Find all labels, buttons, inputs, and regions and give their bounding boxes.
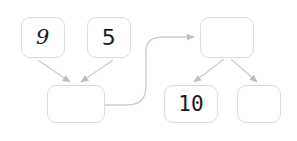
- node-sum-left[interactable]: [47, 85, 105, 123]
- edge-total-to-part-left: [194, 59, 224, 82]
- node-part-right[interactable]: [237, 85, 281, 123]
- node-part-left[interactable]: 10: [164, 85, 218, 123]
- edge-total-to-part-right: [231, 59, 257, 82]
- node-total-top[interactable]: [200, 17, 254, 58]
- node-addend-left[interactable]: 9: [21, 17, 65, 58]
- edge-addend-right-to-sum: [81, 60, 113, 82]
- node-addend-left-label: 9: [36, 27, 50, 48]
- node-part-left-label: 10: [178, 94, 203, 115]
- diagram-canvas: 9 5 10: [0, 0, 297, 141]
- node-addend-right-label: 5: [102, 27, 117, 49]
- edge-addend-left-to-sum: [38, 60, 70, 82]
- node-addend-right[interactable]: 5: [87, 17, 131, 58]
